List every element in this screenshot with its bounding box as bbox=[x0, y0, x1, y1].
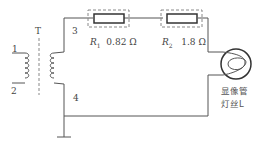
transformer-label: T bbox=[35, 27, 41, 36]
wires bbox=[57, 18, 223, 137]
terminal-2: 2 bbox=[11, 87, 17, 96]
r2-label: R2 1.8 Ω bbox=[162, 38, 206, 49]
load-label-line1: 显像管 bbox=[221, 87, 248, 96]
r2-resistor bbox=[167, 14, 197, 23]
terminal-3: 3 bbox=[72, 27, 78, 36]
r1-resistor bbox=[94, 14, 124, 23]
circuit-diagram bbox=[0, 0, 261, 145]
load-label-line2: 灯丝L bbox=[221, 100, 244, 109]
secondary-coil bbox=[50, 18, 64, 137]
primary-coil bbox=[12, 53, 29, 83]
r1-label: R1 0.82 Ω bbox=[90, 38, 137, 49]
terminal-1: 1 bbox=[12, 45, 18, 54]
terminal-4: 4 bbox=[73, 94, 79, 103]
